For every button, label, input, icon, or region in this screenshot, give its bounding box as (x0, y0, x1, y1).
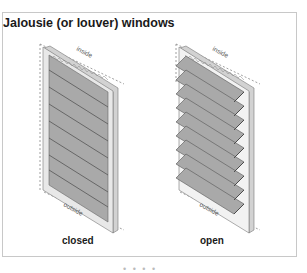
open-caption: open (200, 235, 224, 246)
closed-window: inside outside (40, 44, 124, 233)
jalousie-diagram: inside outside (0, 0, 307, 273)
open-window: inside outside (176, 44, 260, 233)
closed-inside-label: inside (76, 45, 95, 59)
open-inside-label: inside (212, 45, 231, 59)
footer-marker: • • • • (123, 264, 157, 273)
closed-caption: closed (62, 235, 94, 246)
